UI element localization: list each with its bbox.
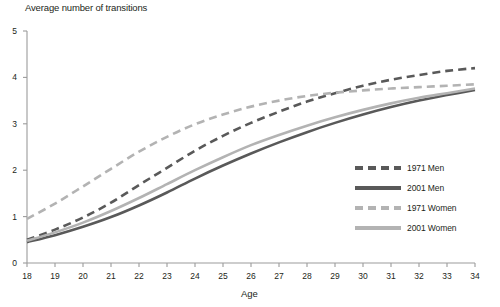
- chart-legend: 1971 Men 2001 Men 1971 Women 2001 Women: [355, 158, 456, 238]
- x-tick-label: 23: [162, 271, 172, 281]
- legend-item[interactable]: 2001 Women: [355, 218, 456, 238]
- legend-swatch-1971-men-icon: [355, 166, 401, 170]
- legend-item[interactable]: 1971 Men: [355, 158, 456, 178]
- x-tick-label: 31: [386, 271, 396, 281]
- x-tick-label: 32: [414, 271, 424, 281]
- y-axis-ticks: 012345: [12, 26, 27, 268]
- y-tick-label: 4: [12, 72, 17, 82]
- legend-label: 1971 Women: [407, 203, 456, 213]
- legend-label: 1971 Men: [407, 163, 444, 173]
- y-tick-label: 0: [12, 258, 17, 268]
- x-axis-title: Age: [241, 288, 258, 299]
- x-tick-label: 33: [442, 271, 452, 281]
- x-tick-label: 20: [78, 271, 88, 281]
- y-tick-label: 3: [12, 119, 17, 129]
- x-tick-label: 24: [190, 271, 200, 281]
- x-tick-label: 26: [246, 271, 256, 281]
- x-tick-label: 18: [22, 271, 32, 281]
- y-tick-label: 1: [12, 212, 17, 222]
- x-tick-label: 19: [50, 271, 60, 281]
- legend-item[interactable]: 1971 Women: [355, 198, 456, 218]
- x-tick-label: 29: [330, 271, 340, 281]
- x-tick-label: 22: [134, 271, 144, 281]
- x-tick-label: 25: [218, 271, 228, 281]
- x-tick-label: 28: [302, 271, 312, 281]
- y-tick-label: 5: [12, 26, 17, 36]
- x-tick-label: 21: [106, 271, 116, 281]
- legend-label: 2001 Women: [407, 223, 456, 233]
- legend-label: 2001 Men: [407, 183, 444, 193]
- chart-plot-area: 012345 181920212223242526272829303132333…: [0, 0, 500, 307]
- x-tick-label: 27: [274, 271, 284, 281]
- y-tick-label: 2: [12, 165, 17, 175]
- chart-container: Average number of transitions 012345 181…: [0, 0, 500, 307]
- legend-item[interactable]: 2001 Men: [355, 178, 456, 198]
- legend-swatch-2001-women-icon: [355, 226, 401, 230]
- legend-swatch-1971-women-icon: [355, 206, 401, 210]
- x-axis-ticks: 1819202122232425262728293031323334: [22, 263, 480, 281]
- x-tick-label: 30: [358, 271, 368, 281]
- legend-swatch-2001-men-icon: [355, 186, 401, 190]
- x-tick-label: 34: [470, 271, 480, 281]
